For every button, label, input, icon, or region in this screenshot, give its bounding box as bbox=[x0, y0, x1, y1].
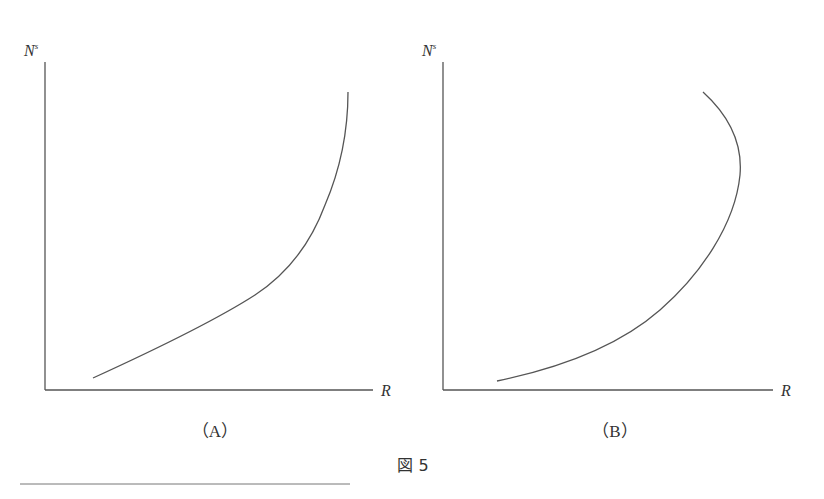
panel-b-curve bbox=[497, 92, 740, 381]
panel-a: Ns R （A） bbox=[23, 41, 391, 441]
panel-a-y-label: Ns bbox=[23, 41, 39, 59]
figure-caption: 図 5 bbox=[397, 456, 428, 475]
panel-b: Ns R （B） bbox=[421, 41, 791, 441]
panel-a-label: （A） bbox=[192, 422, 238, 441]
panel-a-x-label: R bbox=[380, 382, 391, 399]
figure-5: Ns R （A） Ns R （B） 図 5 bbox=[0, 0, 824, 499]
panel-b-y-label: Ns bbox=[421, 41, 437, 59]
panel-b-label: （B） bbox=[592, 422, 637, 441]
panel-a-curve bbox=[93, 92, 348, 378]
panel-b-x-label: R bbox=[780, 382, 791, 399]
